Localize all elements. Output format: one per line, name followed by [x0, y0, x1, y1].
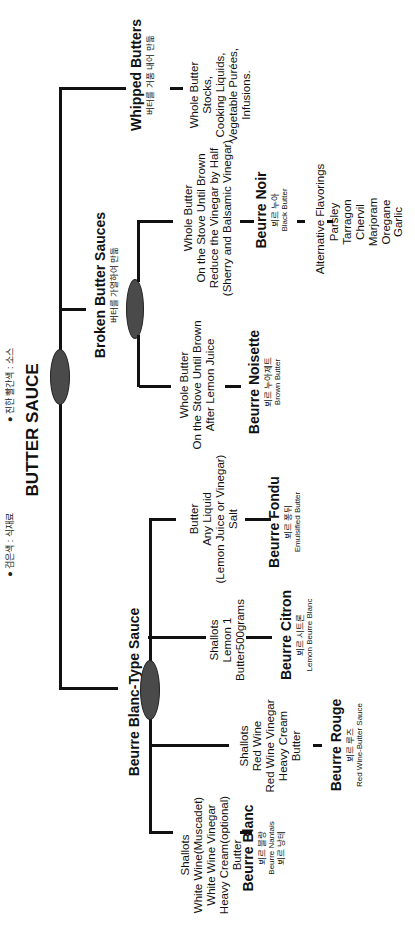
whipped-butters-label: Whipped Butters 버터를 거품 내어 만듦 — [129, 19, 155, 131]
branch-noir — [137, 220, 173, 223]
branch-rouge — [149, 744, 229, 747]
broken-vertical — [137, 220, 140, 282]
beurre-citron-label: Beurre Citron 뵈르 시트론 Lemon Beurre Blanc — [279, 590, 314, 680]
alternative-flavorings-list: Parsley Tarragon Chervil Marjoram Oregan… — [328, 198, 405, 247]
whipped-ingredients: Whole Butter Stocks, Cooking Liquids, Ve… — [188, 48, 252, 142]
root-title: BUTTER SAUCE — [23, 363, 43, 496]
rouge-ingredients: Shallots Red Wine Red Wine Vinegar Heavy… — [238, 699, 302, 792]
broken-node — [126, 279, 144, 339]
citron-ingredients: Shallots Lemon 1 Butter500grams — [208, 599, 247, 681]
blanc-type-node — [140, 660, 160, 720]
branch-blanc-type — [60, 687, 118, 690]
noisette-ingredients: Whole Butter On the Stove Until Brown Af… — [178, 320, 217, 449]
beurre-noir-label: Beurre Noir 뵈르 누아 Black Butter — [254, 171, 289, 248]
noir-connector — [240, 220, 254, 223]
alternative-flavorings-title: Alternative Flavorings — [314, 164, 326, 275]
broken-vertical-lower — [137, 335, 140, 387]
noir-ingredients: Whole Butter On the Stove Until Brown Re… — [182, 140, 234, 296]
branch-blanc — [151, 831, 173, 834]
branch-citron — [148, 636, 206, 639]
root-node — [50, 349, 70, 405]
rouge-connector — [313, 744, 322, 747]
branch-whipped — [60, 87, 126, 90]
legend-ingredients: ● 검은색 : 식재료 — [3, 513, 16, 576]
citron-connector — [246, 636, 272, 639]
fondu-ingredients: Butter Any Liquid (Lemon Juice or Vinega… — [188, 455, 240, 584]
branch-noisette — [139, 385, 171, 388]
beurre-rouge-label: Beurre Rouge 뵈르 루즈 Red Wine-Butter Sauce — [329, 699, 364, 792]
broken-butter-sauces-label: Broken Butter Sauces 버터를 가열하여 만듦 — [93, 212, 119, 358]
noisette-connector — [225, 385, 241, 388]
branch-fondu — [150, 518, 176, 521]
beurre-blanc-label: Beurre Blanc 뵈르 블랑 Beurre Nantais 뵈르 낭테 — [241, 804, 287, 891]
legend-sauce: ● 진한 빨간색 : 소스 — [3, 348, 16, 422]
alt-connector — [297, 220, 305, 223]
beurre-fondu-label: Beurre Fondu 뵈르 퐁뒤 Emulsified Butter — [267, 476, 302, 568]
butter-sauce-diagram: ● 검은색 : 식재료 ● 진한 빨간색 : 소스 BUTTER SAUCE W… — [0, 0, 415, 931]
branch-broken — [60, 308, 86, 311]
beurre-noisette-label: Beurre Noisette 뵈르 누아제트 Brown Butter — [247, 330, 282, 434]
whipped-connector — [170, 87, 183, 90]
blanc-ingredients: Shallots White Wine(Muscadet) White Wine… — [179, 796, 243, 914]
